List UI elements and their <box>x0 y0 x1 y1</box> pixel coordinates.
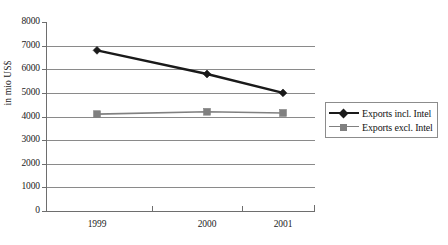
line-chart-figure: in mio US$ 01000200030004000500060007000… <box>0 0 448 245</box>
x-axis-tick-label: 2001 <box>253 219 313 229</box>
y-axis-tick-label: 2000 <box>6 158 40 168</box>
diamond-marker-icon <box>93 46 101 54</box>
y-axis-tick-label: 7000 <box>6 40 40 50</box>
diamond-marker-icon <box>339 109 349 119</box>
diamond-marker-icon <box>203 70 211 78</box>
y-axis-tick-label: 6000 <box>6 63 40 73</box>
y-axis-tick-label: 0 <box>6 205 40 215</box>
y-axis-tick-label: 1000 <box>6 181 40 191</box>
chart-legend: Exports incl. IntelExports excl. Intel <box>325 102 438 138</box>
legend-swatch <box>329 107 359 119</box>
series-2-group <box>94 108 287 117</box>
series-1-line <box>97 50 283 93</box>
square-marker-icon <box>280 110 287 117</box>
legend-item-1: Exports incl. Intel <box>329 106 433 120</box>
y-axis-tick-label: 4000 <box>6 111 40 121</box>
series-1-group <box>93 46 287 96</box>
legend-swatch <box>329 121 359 133</box>
diamond-marker-icon <box>279 89 287 97</box>
y-axis-tick-label: 5000 <box>6 87 40 97</box>
square-marker-icon <box>340 124 347 131</box>
square-marker-icon <box>94 111 101 118</box>
y-axis-tick-label: 8000 <box>6 16 40 26</box>
data-series-group <box>46 22 315 212</box>
legend-item-2: Exports excl. Intel <box>329 120 433 134</box>
plot-area <box>46 22 315 212</box>
legend-label: Exports incl. Intel <box>359 108 431 119</box>
x-axis-tick-label: 1999 <box>67 219 127 229</box>
square-marker-icon <box>204 108 211 115</box>
series-2-line <box>97 112 283 114</box>
x-axis-tick-label: 2000 <box>177 219 237 229</box>
legend-label: Exports excl. Intel <box>359 122 433 133</box>
y-axis-tick-label: 3000 <box>6 134 40 144</box>
